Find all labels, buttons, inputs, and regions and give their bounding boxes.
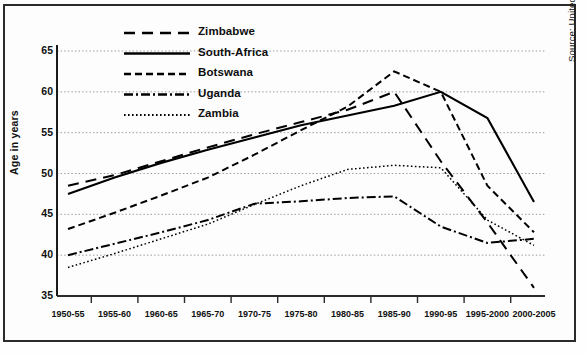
chart-svg	[0, 0, 587, 356]
y-axis-tick-label: 65	[27, 44, 53, 56]
legend-label-zimbabwe: Zimbabwe	[198, 25, 255, 37]
series-line-south-africa	[68, 92, 534, 202]
x-axis-tick-label: 2000-2005	[504, 309, 564, 319]
y-axis-tick-label: 35	[27, 289, 53, 301]
series-line-zambia	[68, 165, 534, 267]
plot-area	[0, 0, 587, 356]
y-axis-tick-label: 50	[27, 167, 53, 179]
series-line-zimbabwe	[68, 92, 534, 288]
legend-label-south-africa: South-Africa	[198, 46, 268, 58]
chart-page: Age in years Source: United Nations Popu…	[0, 0, 587, 356]
legend-swatch-group	[124, 33, 190, 115]
y-axis-tick-label: 40	[27, 248, 53, 260]
gridlines	[57, 51, 545, 255]
legend-label-botswana: Botswana	[198, 66, 253, 78]
legend-label-uganda: Uganda	[198, 87, 241, 99]
y-axis-tick-label: 45	[27, 207, 53, 219]
y-axis-tick-label: 55	[27, 126, 53, 138]
legend-label-zambia: Zambia	[198, 107, 239, 119]
y-axis-tick-label: 60	[27, 85, 53, 97]
